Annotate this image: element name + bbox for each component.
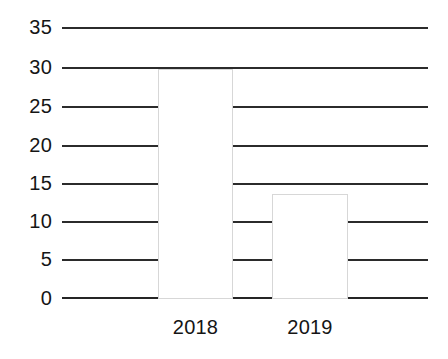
y-tick-label-0: 0 xyxy=(0,288,52,308)
gridline-10 xyxy=(62,221,428,223)
bar-2019 xyxy=(272,194,348,299)
bar-chart: 35 30 25 20 15 10 5 0 2018 2019 xyxy=(0,0,448,359)
gridline-25 xyxy=(62,106,428,108)
gridline-35 xyxy=(62,27,428,29)
y-tick-label-15: 15 xyxy=(0,173,52,193)
y-tick-label-30: 30 xyxy=(0,57,52,77)
x-tick-label-2019: 2019 xyxy=(269,316,351,338)
gridline-0 xyxy=(62,297,428,299)
gridline-20 xyxy=(62,145,428,147)
y-tick-label-20: 20 xyxy=(0,135,52,155)
bar-2018 xyxy=(158,69,233,299)
gridline-15 xyxy=(62,183,428,185)
gridline-30 xyxy=(62,67,428,69)
y-tick-label-5: 5 xyxy=(0,249,52,269)
y-tick-label-25: 25 xyxy=(0,96,52,116)
gridline-5 xyxy=(62,259,428,261)
y-tick-label-35: 35 xyxy=(0,17,52,37)
x-tick-label-2018: 2018 xyxy=(155,316,236,338)
y-tick-label-10: 10 xyxy=(0,211,52,231)
